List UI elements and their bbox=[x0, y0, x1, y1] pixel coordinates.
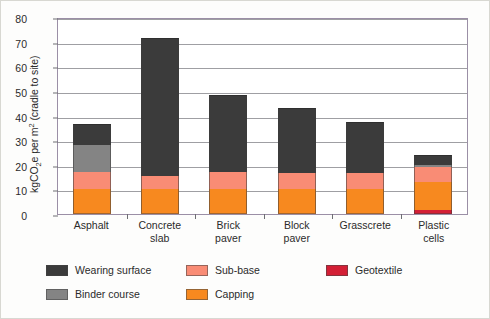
bar-segment bbox=[278, 108, 316, 173]
bar-segment bbox=[73, 189, 111, 214]
y-axis-tick-label: 80 bbox=[1, 13, 27, 25]
plot-area: 01020304050607080 bbox=[57, 18, 468, 215]
bar-segment bbox=[414, 210, 452, 214]
legend-label: Binder course bbox=[75, 288, 140, 300]
x-axis-label-concrete-slab: Concreteslab bbox=[126, 219, 195, 244]
bar-segment bbox=[346, 122, 384, 174]
bar-slot bbox=[331, 19, 399, 214]
bar-segment bbox=[414, 167, 452, 182]
legend-label: Capping bbox=[215, 288, 254, 300]
y-axis-tickmark bbox=[53, 216, 58, 217]
stacked-bar[interactable] bbox=[141, 38, 179, 214]
x-axis-label-brick-paver: Brickpaver bbox=[194, 219, 263, 244]
bar-segment bbox=[73, 172, 111, 189]
stacked-bar[interactable] bbox=[414, 155, 452, 214]
x-axis-labels: AsphaltConcreteslabBrickpaverBlockpaverG… bbox=[57, 219, 468, 244]
legend-item[interactable]: Sub-base bbox=[186, 264, 326, 276]
y-axis-tick-label: 40 bbox=[1, 112, 27, 124]
chart-figure: kgCO2e per m2 (cradle to site) 010203040… bbox=[0, 0, 490, 319]
bar-segment bbox=[73, 124, 111, 145]
x-axis-label-plastic-cells: Plasticcells bbox=[400, 219, 469, 244]
legend-label: Wearing surface bbox=[75, 264, 151, 276]
x-axis-label-grasscrete: Grasscrete bbox=[331, 219, 400, 244]
bar-slot bbox=[58, 19, 126, 214]
legend-label: Geotextile bbox=[355, 264, 402, 276]
y-axis-tick-label: 10 bbox=[1, 185, 27, 197]
legend-item[interactable]: Capping bbox=[186, 288, 326, 300]
legend-swatch-icon bbox=[46, 265, 68, 276]
bar-segment bbox=[346, 189, 384, 214]
legend-swatch-icon bbox=[326, 265, 348, 276]
legend-item[interactable]: Binder course bbox=[46, 288, 186, 300]
legend-swatch-icon bbox=[186, 265, 208, 276]
bar-slot bbox=[126, 19, 194, 214]
bar-segment bbox=[278, 173, 316, 189]
bar-segment bbox=[141, 176, 179, 190]
y-axis-tick-label: 60 bbox=[1, 62, 27, 74]
y-axis-tick-label: 20 bbox=[1, 161, 27, 173]
bar-segment bbox=[141, 38, 179, 176]
bar-segment bbox=[209, 95, 247, 173]
x-axis-label-asphalt: Asphalt bbox=[57, 219, 126, 244]
y-axis-tick-label: 70 bbox=[1, 38, 27, 50]
legend-item[interactable]: Geotextile bbox=[326, 264, 466, 276]
bar-slot bbox=[194, 19, 262, 214]
bar-segment bbox=[73, 145, 111, 172]
stacked-bar[interactable] bbox=[278, 108, 316, 214]
y-axis-tick-label: 30 bbox=[1, 136, 27, 148]
legend-item[interactable]: Wearing surface bbox=[46, 264, 186, 276]
chart-legend: Wearing surfaceSub-baseGeotextileBinder … bbox=[46, 258, 466, 306]
stacked-bar[interactable] bbox=[209, 95, 247, 214]
bar-slot bbox=[399, 19, 467, 214]
y-axis-tick-label: 0 bbox=[1, 210, 27, 222]
bar-segment bbox=[209, 172, 247, 189]
legend-swatch-icon bbox=[46, 289, 68, 300]
bar-segment bbox=[141, 189, 179, 214]
stacked-bar[interactable] bbox=[346, 122, 384, 214]
legend-label: Sub-base bbox=[215, 264, 260, 276]
bar-segment bbox=[346, 173, 384, 189]
bar-segment bbox=[209, 189, 247, 214]
y-axis-title: kgCO2e per m2 (cradle to site) bbox=[27, 19, 44, 229]
x-axis-label-block-paver: Blockpaver bbox=[263, 219, 332, 244]
bar-segment bbox=[414, 182, 452, 210]
stacked-bar[interactable] bbox=[73, 124, 111, 214]
bar-group bbox=[58, 19, 467, 214]
bar-segment bbox=[278, 189, 316, 214]
bar-segment bbox=[414, 155, 452, 165]
y-axis-tick-label: 50 bbox=[1, 87, 27, 99]
legend-swatch-icon bbox=[186, 289, 208, 300]
bar-slot bbox=[263, 19, 331, 214]
